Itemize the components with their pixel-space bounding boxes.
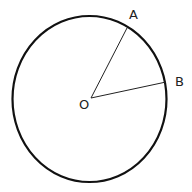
radius-oa — [91, 28, 127, 98]
label-point-b: B — [175, 74, 184, 89]
label-point-a: A — [129, 7, 138, 22]
label-center-o: O — [79, 97, 89, 112]
circle-diagram: O A B — [0, 0, 192, 192]
radius-ob — [91, 82, 166, 98]
circle — [13, 16, 167, 182]
